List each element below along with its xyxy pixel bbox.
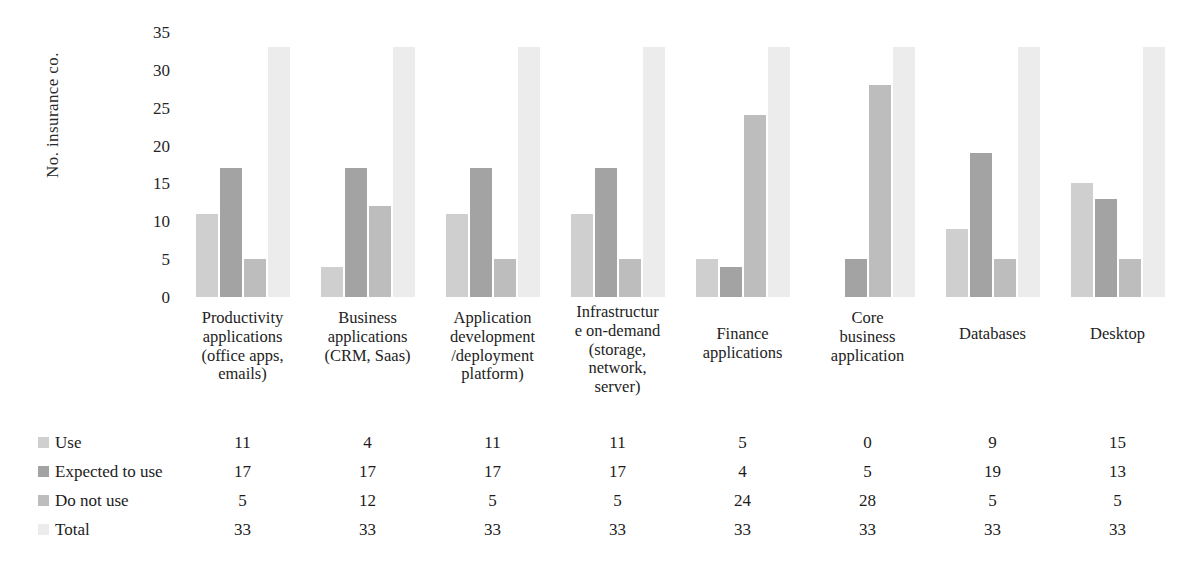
x-category-label-line: Productivity bbox=[180, 309, 305, 328]
x-category-label-line: (office apps, bbox=[180, 347, 305, 366]
bar-total bbox=[1018, 47, 1040, 297]
bar-do-not-use bbox=[369, 206, 391, 297]
bar-expected-to-use bbox=[1095, 199, 1117, 297]
x-axis-category-labels: Productivityapplications(office apps,ema… bbox=[186, 303, 1186, 423]
x-category-label-line: (storage, bbox=[555, 341, 680, 360]
x-category-label-line: e on-demand bbox=[555, 322, 680, 341]
x-category-label: Businessapplications(CRM, Saas) bbox=[305, 309, 430, 365]
data-table: Use114111150915Expected to use1717171745… bbox=[0, 428, 1200, 578]
bar-do-not-use bbox=[1119, 259, 1141, 297]
legend-label: Use bbox=[55, 433, 81, 453]
x-category-label-line: development bbox=[430, 328, 555, 347]
table-cell: 33 bbox=[828, 515, 908, 544]
table-cell: 15 bbox=[1078, 428, 1158, 457]
y-tick-label: 5 bbox=[118, 251, 170, 268]
bar-group bbox=[946, 32, 1040, 297]
table-cell: 9 bbox=[953, 428, 1033, 457]
table-cell: 11 bbox=[203, 428, 283, 457]
x-category-label-line: Core bbox=[805, 309, 930, 328]
bar-use bbox=[196, 214, 218, 297]
legend-item-do-not-use[interactable]: Do not use bbox=[38, 486, 129, 515]
legend-swatch-icon bbox=[38, 466, 49, 477]
bar-expected-to-use bbox=[595, 168, 617, 297]
table-cell: 11 bbox=[453, 428, 533, 457]
table-cell: 4 bbox=[703, 457, 783, 486]
x-category-label: Infrastructure on-demand(storage,network… bbox=[555, 303, 680, 397]
bar-group bbox=[446, 32, 540, 297]
table-cell: 5 bbox=[203, 486, 283, 515]
legend-swatch-icon bbox=[38, 495, 49, 506]
bar-total bbox=[268, 47, 290, 297]
y-tick-label: 30 bbox=[118, 62, 170, 79]
table-cell: 17 bbox=[578, 457, 658, 486]
table-row: Expected to use17171717451913 bbox=[0, 457, 1200, 486]
x-category-label-line: Application bbox=[430, 309, 555, 328]
y-tick-label: 25 bbox=[118, 100, 170, 117]
bar-do-not-use bbox=[619, 259, 641, 297]
x-category-label: Productivityapplications(office apps,ema… bbox=[180, 309, 305, 384]
table-cell: 4 bbox=[328, 428, 408, 457]
table-cell: 28 bbox=[828, 486, 908, 515]
table-cell: 5 bbox=[703, 428, 783, 457]
table-row: Do not use51255242855 bbox=[0, 486, 1200, 515]
legend-label: Do not use bbox=[55, 491, 129, 511]
bar-do-not-use bbox=[994, 259, 1016, 297]
table-cell: 33 bbox=[328, 515, 408, 544]
legend-item-expected-to-use[interactable]: Expected to use bbox=[38, 457, 163, 486]
x-category-label-line: Finance bbox=[680, 325, 805, 344]
table-cell: 5 bbox=[953, 486, 1033, 515]
table-cell: 5 bbox=[1078, 486, 1158, 515]
bar-use bbox=[571, 214, 593, 297]
bar-total bbox=[1143, 47, 1165, 297]
bar-use bbox=[946, 229, 968, 297]
x-category-label: Desktop bbox=[1055, 325, 1180, 344]
bar-use bbox=[696, 259, 718, 297]
bar-expected-to-use bbox=[220, 168, 242, 297]
x-category-label: Corebusinessapplication bbox=[805, 309, 930, 365]
x-category-label-line: Desktop bbox=[1055, 325, 1180, 344]
bar-do-not-use bbox=[244, 259, 266, 297]
bar-do-not-use bbox=[494, 259, 516, 297]
x-category-label-line: platform) bbox=[430, 365, 555, 384]
bar-group bbox=[1071, 32, 1165, 297]
legend-item-use[interactable]: Use bbox=[38, 428, 81, 457]
table-cell: 17 bbox=[453, 457, 533, 486]
table-cell: 17 bbox=[328, 457, 408, 486]
table-cell: 33 bbox=[953, 515, 1033, 544]
bar-expected-to-use bbox=[720, 267, 742, 297]
y-axis-ticks: 35302520151050 bbox=[118, 28, 170, 308]
x-category-label-line: application bbox=[805, 347, 930, 366]
table-cell: 33 bbox=[578, 515, 658, 544]
x-category-label-line: Business bbox=[305, 309, 430, 328]
x-category-label-line: network, bbox=[555, 359, 680, 378]
table-row: Use114111150915 bbox=[0, 428, 1200, 457]
x-category-label-line: applications bbox=[680, 344, 805, 363]
bar-group bbox=[821, 32, 915, 297]
plot-area bbox=[186, 32, 1186, 297]
bar-total bbox=[393, 47, 415, 297]
bar-use bbox=[1071, 183, 1093, 297]
table-cell: 33 bbox=[1078, 515, 1158, 544]
table-cell: 5 bbox=[828, 457, 908, 486]
bar-chart: No. insurance co. 35302520151050 Product… bbox=[0, 0, 1200, 579]
bar-expected-to-use bbox=[470, 168, 492, 297]
table-cell: 19 bbox=[953, 457, 1033, 486]
bar-group bbox=[196, 32, 290, 297]
bar-do-not-use bbox=[869, 85, 891, 297]
bar-expected-to-use bbox=[345, 168, 367, 297]
table-cell: 24 bbox=[703, 486, 783, 515]
legend-item-total[interactable]: Total bbox=[38, 515, 90, 544]
y-tick-label: 10 bbox=[118, 213, 170, 230]
table-cell: 11 bbox=[578, 428, 658, 457]
table-cell: 13 bbox=[1078, 457, 1158, 486]
x-category-label-line: business bbox=[805, 328, 930, 347]
y-tick-label: 0 bbox=[118, 289, 170, 306]
x-category-label: Databases bbox=[930, 325, 1055, 344]
table-cell: 17 bbox=[203, 457, 283, 486]
bar-use bbox=[321, 267, 343, 297]
y-axis-title: No. insurance co. bbox=[43, 0, 63, 230]
legend-swatch-icon bbox=[38, 437, 49, 448]
x-category-label-line: Infrastructur bbox=[555, 303, 680, 322]
y-tick-label: 15 bbox=[118, 175, 170, 192]
bar-use bbox=[446, 214, 468, 297]
